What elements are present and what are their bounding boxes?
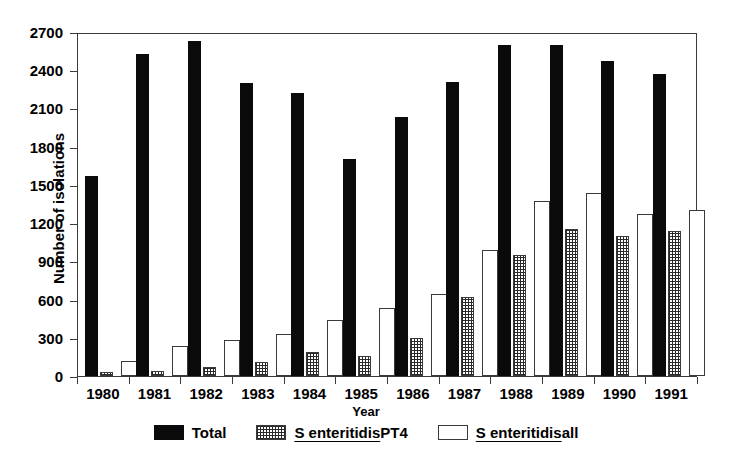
bar-all: [172, 346, 188, 376]
y-tick-mark: [70, 186, 77, 187]
bar-pt4: [461, 297, 474, 376]
x-axis-title: Year: [0, 404, 732, 419]
bar-total: [343, 159, 356, 376]
bar-total: [653, 74, 666, 376]
legend-label: S enteritidisall: [476, 424, 579, 441]
bar-total: [498, 45, 511, 376]
bar-all: [431, 294, 447, 376]
x-tick-mark: [284, 377, 285, 384]
plot-area: [77, 33, 697, 377]
bar-total: [188, 41, 201, 376]
y-tick-mark: [70, 224, 77, 225]
x-tick-mark: [387, 377, 388, 384]
y-tick-mark: [70, 301, 77, 302]
y-tick-label: 0: [0, 369, 63, 384]
y-tick-label: 1200: [0, 216, 63, 231]
x-tick-mark: [335, 377, 336, 384]
x-tick-mark: [180, 377, 181, 384]
legend-item[interactable]: Total: [154, 424, 227, 441]
legend-label: S enteritidisPT4: [294, 424, 407, 441]
bar-chart-figure: Number of isolations 0300600900120015001…: [0, 0, 732, 476]
bar-pt4: [616, 236, 629, 376]
bar-pt4: [410, 338, 423, 376]
x-tick-mark: [490, 377, 491, 384]
bar-all: [534, 201, 550, 376]
bar-total: [291, 93, 304, 376]
solid-black-swatch: [154, 425, 184, 440]
x-tick-mark: [77, 377, 78, 384]
x-tick-mark: [542, 377, 543, 384]
legend-label-species: S enteritidis: [294, 424, 380, 441]
x-tick-label: 1991: [636, 386, 706, 401]
bar-total: [85, 176, 98, 376]
bar-all: [379, 308, 395, 376]
bar-all: [276, 334, 292, 376]
legend-label-suffix: PT4: [380, 424, 408, 441]
y-tick-label: 1500: [0, 178, 63, 193]
y-tick-mark: [70, 148, 77, 149]
y-tick-mark: [70, 377, 77, 378]
legend-item[interactable]: S enteritidisall: [438, 424, 579, 441]
x-tick-mark: [594, 377, 595, 384]
x-tick-mark: [129, 377, 130, 384]
bar-all: [224, 340, 240, 376]
x-tick-mark: [232, 377, 233, 384]
bar-pt4: [513, 255, 526, 376]
bar-all: [482, 250, 498, 376]
legend-label-species: S enteritidis: [476, 424, 562, 441]
y-tick-label: 2100: [0, 101, 63, 116]
bar-all: [327, 320, 343, 376]
y-tick-mark: [70, 33, 77, 34]
bar-pt4: [668, 231, 681, 376]
legend-label-suffix: all: [562, 424, 579, 441]
x-tick-mark: [439, 377, 440, 384]
y-tick-label: 900: [0, 254, 63, 269]
legend-item[interactable]: S enteritidisPT4: [256, 424, 407, 441]
bar-pt4: [100, 372, 113, 376]
y-tick-label: 2700: [0, 25, 63, 40]
y-tick-mark: [70, 262, 77, 263]
bar-pt4: [255, 362, 268, 376]
bar-total: [395, 117, 408, 376]
bar-pt4: [203, 367, 216, 376]
cross-hatch-swatch: [256, 425, 286, 440]
chart-legend: TotalS enteritidisPT4S enteritidisall: [0, 424, 732, 441]
bar-total: [136, 54, 149, 376]
bar-all: [689, 210, 705, 376]
bar-total: [240, 83, 253, 376]
bar-total: [446, 82, 459, 376]
y-tick-mark: [70, 71, 77, 72]
y-tick-label: 600: [0, 293, 63, 308]
y-tick-mark: [70, 339, 77, 340]
y-tick-mark: [70, 109, 77, 110]
legend-label: Total: [192, 424, 227, 441]
bar-total: [601, 61, 614, 376]
bar-all: [586, 193, 602, 376]
bar-all: [637, 214, 653, 376]
x-tick-mark: [697, 377, 698, 384]
y-tick-label: 2400: [0, 63, 63, 78]
white-outline-swatch: [438, 425, 468, 440]
y-tick-label: 1800: [0, 140, 63, 155]
y-tick-label: 300: [0, 331, 63, 346]
bar-all: [121, 361, 137, 376]
bar-pt4: [151, 371, 164, 376]
x-tick-mark: [645, 377, 646, 384]
bar-pt4: [358, 356, 371, 376]
bar-pt4: [306, 352, 319, 376]
bar-total: [550, 45, 563, 376]
bar-pt4: [565, 229, 578, 376]
